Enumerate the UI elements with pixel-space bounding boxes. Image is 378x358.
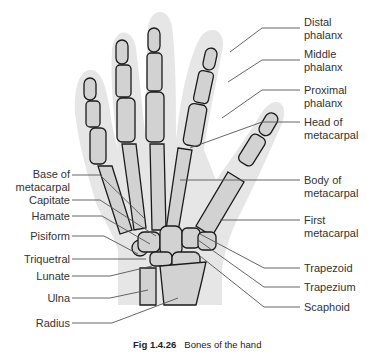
label-text: phalanx xyxy=(304,61,343,74)
label-base-of-metacarpal: Base ofmetacarpal xyxy=(16,168,70,194)
label-text: Middle xyxy=(304,48,343,61)
label-triquetral: Triquetral xyxy=(24,253,70,266)
label-head-of-metacarpal: Head ofmetacarpal xyxy=(304,116,358,142)
label-text: phalanx xyxy=(304,97,347,110)
label-text: Scaphoid xyxy=(304,301,350,314)
label-text: phalanx xyxy=(304,29,343,42)
label-capitate: Capitate xyxy=(29,194,70,207)
label-trapezoid: Trapezoid xyxy=(304,262,353,275)
label-text: Triquetral xyxy=(24,253,70,266)
label-text: Radius xyxy=(36,317,70,330)
label-text: Body of xyxy=(304,174,358,187)
label-text: metacarpal xyxy=(16,181,70,194)
label-lunate: Lunate xyxy=(36,270,70,283)
label-text: First xyxy=(304,214,358,227)
label-proximal-phalanx: Proximalphalanx xyxy=(304,84,347,110)
label-text: Lunate xyxy=(36,270,70,283)
label-first-metacarpal: Firstmetacarpal xyxy=(304,214,358,240)
label-text: Pisiform xyxy=(30,230,70,243)
label-middle-phalanx: Middlephalanx xyxy=(304,48,343,74)
hand-bones-figure: Distalphalanx Middlephalanx Proximalphal… xyxy=(0,0,378,358)
caption-number: Fig 1.4.26 xyxy=(133,339,176,350)
label-radius: Radius xyxy=(36,317,70,330)
label-body-of-metacarpal: Body ofmetacarpal xyxy=(304,174,358,200)
label-hamate: Hamate xyxy=(31,210,70,223)
label-text: Capitate xyxy=(29,194,70,207)
label-text: Distal xyxy=(304,16,343,29)
label-text: Trapezium xyxy=(304,281,356,294)
label-text: metacarpal xyxy=(304,227,358,240)
label-text: metacarpal xyxy=(304,187,358,200)
label-ulna: Ulna xyxy=(47,292,70,305)
label-trapezium: Trapezium xyxy=(304,281,356,294)
label-text: Proximal xyxy=(304,84,347,97)
label-text: Ulna xyxy=(47,292,70,305)
label-distal-phalanx: Distalphalanx xyxy=(304,16,343,42)
label-pisiform: Pisiform xyxy=(30,230,70,243)
caption-text: Bones of the hand xyxy=(184,339,261,350)
label-text: Head of xyxy=(304,116,358,129)
figure-caption: Fig 1.4.26Bones of the hand xyxy=(133,339,261,350)
label-text: Hamate xyxy=(31,210,70,223)
label-text: metacarpal xyxy=(304,129,358,142)
label-scaphoid: Scaphoid xyxy=(304,301,350,314)
label-text: Base of xyxy=(16,168,70,181)
label-text: Trapezoid xyxy=(304,262,353,275)
